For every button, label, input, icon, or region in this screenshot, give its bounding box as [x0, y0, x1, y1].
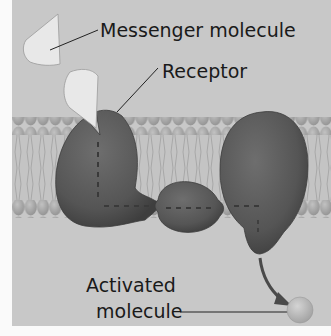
receptor-label: Receptor: [162, 60, 247, 82]
messenger-label: Messenger molecule: [100, 19, 296, 41]
signal-transduction-diagram: Messenger molecule Receptor Activated mo…: [0, 0, 331, 336]
activated-molecule: [287, 297, 313, 323]
activated-label-line2: molecule: [96, 300, 183, 322]
activated-label-line1: Activated: [86, 274, 176, 296]
